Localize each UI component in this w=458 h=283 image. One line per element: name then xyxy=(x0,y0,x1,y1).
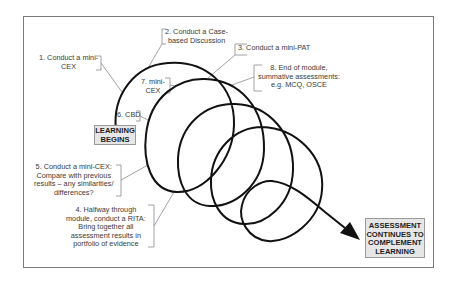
step-2-label: 2. Conduct a Case-based Discussion xyxy=(165,28,228,45)
step-7-label: 7. mini-CEX xyxy=(141,78,165,95)
step-5-label: 5. Conduct a mini-CEX:Compare with previ… xyxy=(34,163,113,197)
step-6-label: 6. CBD xyxy=(117,111,141,120)
arrowhead xyxy=(340,222,360,240)
learning-begins-box: LEARNINGBEGINS xyxy=(94,125,136,145)
step-3-label: 3. Conduct a mini-PAT xyxy=(238,44,310,53)
assessment-continues-box: ASSESSMENTCONTINUES TOCOMPLEMENTLEARNING xyxy=(365,218,425,258)
step-1-label: 1. Conduct a mini-CEX xyxy=(39,54,98,71)
step-8-label: 8. End of module,summative assessments:e… xyxy=(258,64,340,90)
step-4-label: 4. Halfway throughmodule, conduct a RITA… xyxy=(66,206,146,249)
